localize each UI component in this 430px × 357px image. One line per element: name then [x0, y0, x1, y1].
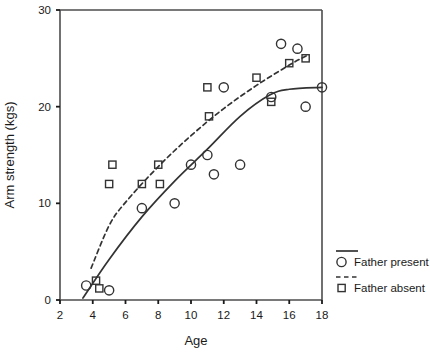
x-tick-label: 12 — [217, 309, 230, 321]
arm-strength-scatter-chart: 0102030 24681012141618 Age Arm strength … — [0, 0, 430, 357]
y-tick-label: 10 — [38, 197, 51, 209]
x-tick-label: 6 — [122, 309, 128, 321]
y-axis-title: Arm strength (kgs) — [2, 102, 17, 209]
x-tick-label: 18 — [316, 309, 329, 321]
x-tick-label: 8 — [155, 309, 161, 321]
x-tick-label: 14 — [250, 309, 263, 321]
chart-canvas: 0102030 24681012141618 Age Arm strength … — [0, 0, 430, 357]
x-axis-title: Age — [184, 333, 207, 348]
x-tick-label: 4 — [90, 309, 97, 321]
y-tick-label: 20 — [38, 101, 51, 113]
y-tick-label: 30 — [38, 4, 51, 16]
y-tick-label: 0 — [45, 294, 51, 306]
legend-label-father-present: Father present — [354, 256, 430, 268]
x-tick-label: 2 — [57, 309, 63, 321]
x-tick-label: 10 — [185, 309, 198, 321]
x-tick-label: 16 — [283, 309, 296, 321]
legend-label-father-absent: Father absent — [354, 282, 426, 294]
